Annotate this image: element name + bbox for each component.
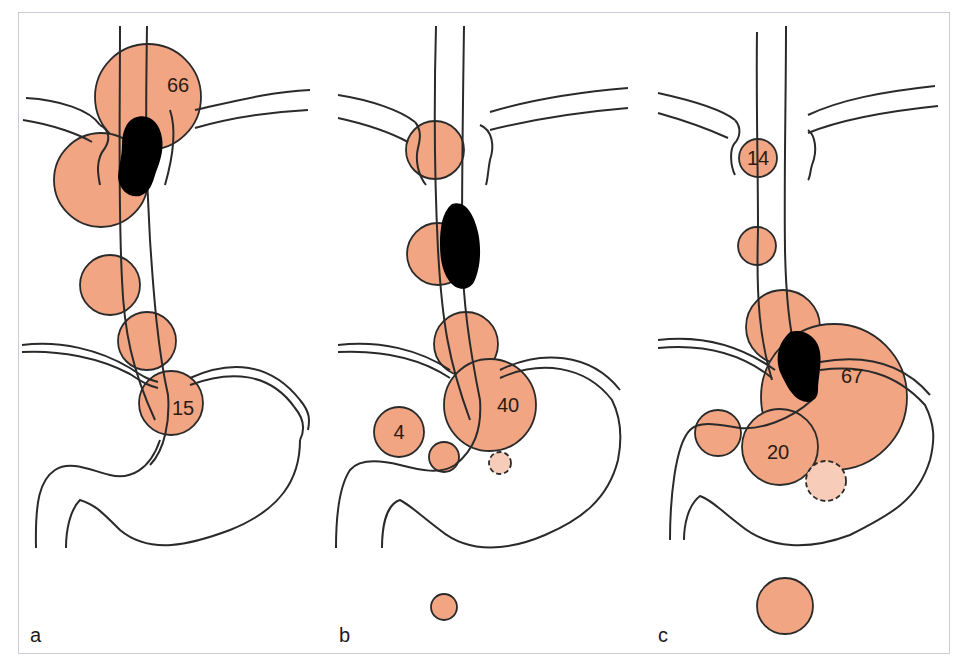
lymph-node	[695, 410, 741, 456]
lymph-node	[489, 452, 511, 474]
panel-c: 146720	[658, 26, 938, 634]
panel-label-c: c	[658, 624, 668, 647]
lymph-node	[757, 578, 813, 634]
node-count-label: 67	[841, 365, 863, 387]
lymph-nodes-a	[54, 44, 203, 435]
panel-label-b: b	[339, 624, 350, 647]
lymph-node	[118, 312, 176, 370]
lymph-node	[806, 461, 846, 501]
node-count-label: 20	[767, 441, 789, 463]
panel-b: 404	[336, 26, 628, 620]
node-count-label: 4	[393, 421, 404, 443]
panel-a: 6615	[22, 26, 310, 548]
lymph-node	[80, 255, 140, 315]
node-count-label: 66	[167, 74, 189, 96]
node-count-label: 14	[747, 147, 769, 169]
anatomy-outline-b	[336, 26, 628, 548]
lymph-node	[431, 594, 457, 620]
panel-label-a: a	[30, 624, 41, 647]
anatomy-diagram: 6615 404	[0, 0, 968, 670]
node-count-label: 40	[497, 394, 519, 416]
node-count-label: 15	[172, 397, 194, 419]
lymph-node	[444, 359, 536, 451]
lymph-node	[429, 442, 459, 472]
